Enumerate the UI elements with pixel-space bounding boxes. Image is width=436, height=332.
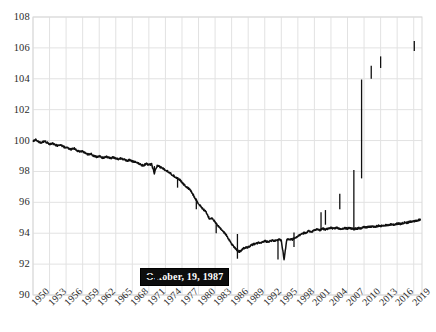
x-tick-label: 2019 [410,286,432,308]
annotation-october-1987: October, 19, 1987 [140,271,164,282]
annotation-arrow-icon [142,271,164,282]
chart-figure: 1081061041021009896949290 19501953195619… [0,0,436,332]
